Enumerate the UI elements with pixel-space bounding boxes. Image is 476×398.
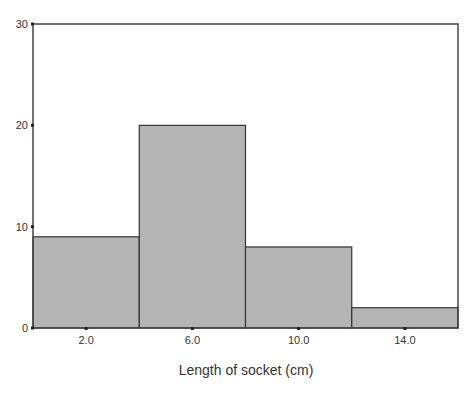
histogram-chart: 0102030 2.06.010.014.0 Length of socket … — [0, 0, 476, 398]
y-tick-label: 20 — [16, 119, 28, 131]
x-tick-label: 2.0 — [78, 334, 93, 346]
bars — [33, 125, 458, 328]
histogram-bar — [352, 308, 458, 328]
histogram-bar — [33, 237, 139, 328]
x-tick-label: 10.0 — [288, 334, 309, 346]
y-axis: 0102030 — [16, 18, 34, 334]
histogram-bar — [139, 125, 245, 328]
histogram-bar — [246, 247, 352, 328]
y-tick-label: 30 — [16, 18, 28, 30]
x-tick-label: 14.0 — [394, 334, 415, 346]
x-tick-label: 6.0 — [185, 334, 200, 346]
y-tick-label: 0 — [22, 322, 28, 334]
x-axis: 2.06.010.014.0 — [78, 327, 415, 346]
x-axis-title: Length of socket (cm) — [179, 362, 314, 378]
y-tick-label: 10 — [16, 221, 28, 233]
